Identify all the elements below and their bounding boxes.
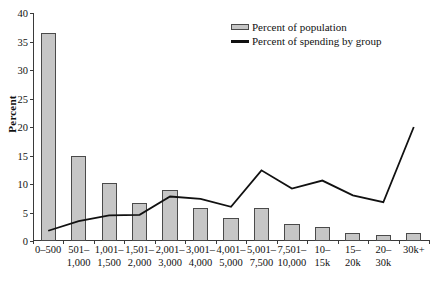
- legend-label-population: Percent of population: [252, 21, 347, 33]
- y-tick-label: 5: [23, 207, 28, 218]
- y-axis-title: Percent: [6, 79, 18, 149]
- y-tick-label: 10: [18, 179, 29, 190]
- y-tick-label: 40: [18, 8, 29, 19]
- x-axis-labels: 0–500501– 1,0001,001– 1,5001,501– 2,0002…: [33, 244, 429, 286]
- y-tick-label: 35: [18, 36, 29, 47]
- y-tick-label: 15: [18, 150, 29, 161]
- y-tick-label: 0: [23, 236, 28, 247]
- x-tick-label: 30k+: [395, 244, 433, 257]
- chart-legend: Percent of population Percent of spendin…: [231, 20, 382, 48]
- spending-line-path: [48, 127, 414, 231]
- y-tick-label: 30: [18, 65, 29, 76]
- legend-line-swatch-icon: [231, 40, 249, 43]
- chart-container: Percent 0510152025303540 0–500501– 1,000…: [0, 0, 436, 286]
- y-tick-label: 25: [18, 93, 29, 104]
- legend-item-percent-of-spending: Percent of spending by group: [231, 34, 382, 48]
- y-tick-label: 20: [18, 122, 29, 133]
- legend-item-percent-of-population: Percent of population: [231, 20, 382, 34]
- legend-label-spending: Percent of spending by group: [252, 35, 382, 47]
- legend-bar-swatch-icon: [231, 24, 249, 30]
